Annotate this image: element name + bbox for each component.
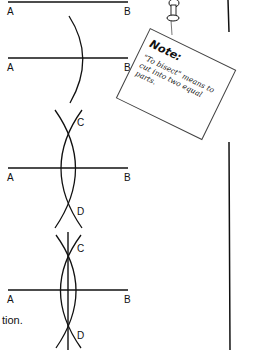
- page-margin-line: [228, 0, 230, 350]
- point-c-label: C: [77, 117, 84, 128]
- figure-3-intersecting-arcs: C D A B: [7, 110, 131, 228]
- point-b-label: B: [124, 294, 131, 305]
- point-d-label: D: [77, 330, 84, 341]
- point-b-label: B: [124, 6, 131, 17]
- text-fragment: tion.: [2, 314, 23, 326]
- figure-2-single-arc: A B: [7, 16, 131, 103]
- point-a-label: A: [7, 62, 14, 73]
- bisection-construction-diagram: A B A B C D A B C D A B: [0, 0, 255, 350]
- point-d-label: D: [77, 206, 84, 217]
- push-pin-icon: [167, 0, 179, 35]
- point-a-label: A: [7, 172, 14, 183]
- point-b-label: B: [124, 172, 131, 183]
- figure-4-perpendicular-bisector: C D A B: [7, 232, 131, 350]
- point-c-label: C: [77, 243, 84, 254]
- point-a-label: A: [7, 294, 14, 305]
- point-a-label: A: [7, 6, 14, 17]
- figure-1-segment: A B: [7, 2, 131, 17]
